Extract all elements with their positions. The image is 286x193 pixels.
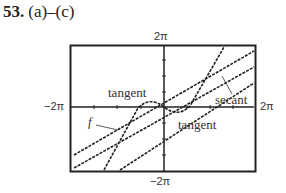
tangent-label-lower: tangent — [178, 117, 217, 132]
tangent-label-upper: tangent — [108, 85, 147, 100]
f-leader — [96, 125, 118, 130]
graph: tangent secant tangent f — [0, 0, 286, 193]
f-label: f — [88, 114, 94, 129]
secant-label: secant — [215, 92, 248, 107]
graph-frame — [71, 46, 256, 172]
